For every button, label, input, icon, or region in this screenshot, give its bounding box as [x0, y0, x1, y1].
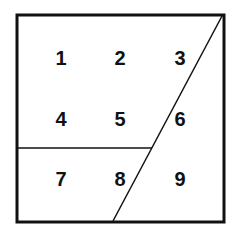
- cell-label-2: 2: [114, 47, 125, 69]
- cell-label-7: 7: [55, 168, 66, 190]
- grid-diagram: 1 2 3 4 5 6 7 8 9: [0, 0, 239, 236]
- cell-label-8: 8: [114, 168, 125, 190]
- cell-label-5: 5: [114, 108, 125, 130]
- cell-label-9: 9: [174, 168, 185, 190]
- diagonal-divider: [113, 16, 222, 221]
- cell-label-3: 3: [174, 47, 185, 69]
- cell-label-4: 4: [55, 108, 67, 130]
- cell-label-6: 6: [174, 108, 185, 130]
- cell-label-1: 1: [55, 47, 66, 69]
